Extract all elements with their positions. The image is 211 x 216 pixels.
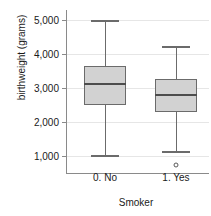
y-tick-label: 2,000 bbox=[34, 117, 59, 128]
outlier-point bbox=[174, 162, 179, 167]
upper-whisker bbox=[176, 46, 177, 79]
y-tick-label: 5,000 bbox=[34, 15, 59, 26]
y-tick-label: 3,000 bbox=[34, 83, 59, 94]
lower-whisker bbox=[176, 112, 177, 151]
upper-whisker-cap bbox=[162, 46, 190, 48]
x-tick-label: 0. No bbox=[93, 172, 117, 183]
y-axis-title: birthweight (grams) bbox=[16, 0, 27, 123]
x-axis-title: Smoker bbox=[66, 197, 206, 208]
plot-area: 1,0002,0003,0004,0005,000 bbox=[66, 10, 209, 173]
lower-whisker-cap bbox=[162, 151, 190, 153]
median-line bbox=[155, 94, 197, 96]
boxplot-figure: birthweight (grams) 1,0002,0003,0004,000… bbox=[0, 0, 211, 216]
box-plot-2 bbox=[66, 10, 209, 173]
x-tick-label: 1. Yes bbox=[162, 172, 189, 183]
y-tick-label: 4,000 bbox=[34, 49, 59, 60]
y-tick-label: 1,000 bbox=[34, 151, 59, 162]
